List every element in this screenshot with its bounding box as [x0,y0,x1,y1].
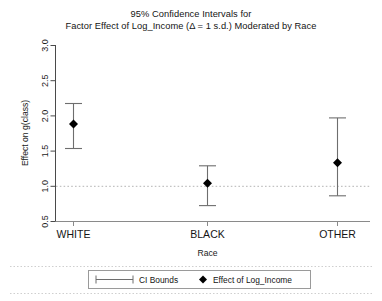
datapoint-group-black [199,166,216,206]
datapoint-group-other [329,118,346,196]
chart-legend: CI Bounds Effect of Log_Income [89,271,311,289]
legend-label-effect: Effect of Log_Income [213,275,292,285]
marker-diamond-white [69,120,78,129]
y-tick-label-0: 0.5 [40,215,50,228]
x-category-label-black: BLACK [190,228,224,240]
x-category-label-other: OTHER [319,228,356,240]
y-tick-label-3: 2.0 [40,110,50,123]
y-tick-label-2: 1.5 [40,145,50,158]
legend-label-ci-bounds: CI Bounds [139,275,178,285]
marker-diamond-other [333,158,342,167]
y-tick-label-5: 3.0 [40,39,50,52]
confidence-interval-chart: 95% Confidence Intervals for Factor Effe… [0,0,382,301]
x-category-label-white: WHITE [57,228,91,240]
x-axis-title: Race [197,248,217,258]
y-axis-title: Effect on g(class) [20,100,30,166]
datapoint-group-white [65,104,82,149]
y-tick-label-1: 1.0 [40,180,50,193]
plot-area: 0.5 1.0 1.5 2.0 2.5 3.0 Effect on g(clas… [0,0,382,301]
y-axis-ticks [51,46,56,222]
y-tick-label-4: 2.5 [40,74,50,87]
y-axis-tick-labels: 0.5 1.0 1.5 2.0 2.5 3.0 [40,39,50,228]
x-axis-ticks [74,222,338,227]
